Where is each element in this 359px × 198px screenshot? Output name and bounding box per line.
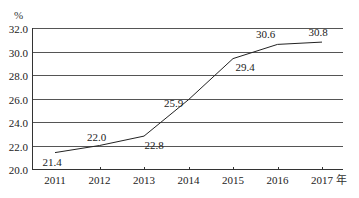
data-label: 21.4 — [42, 156, 62, 168]
x-tick-label: 2017 — [311, 174, 334, 186]
data-label: 29.4 — [235, 61, 255, 73]
y-tick-label: 32.0 — [9, 23, 29, 35]
data-label: 30.6 — [256, 28, 276, 40]
y-tick-label: 28.0 — [9, 70, 29, 82]
x-tick-label: 2013 — [133, 174, 156, 186]
x-tick-label: 2012 — [89, 174, 111, 186]
data-label: 22.0 — [87, 131, 107, 143]
x-tick-label: 2016 — [267, 174, 290, 186]
y-tick-label: 26.0 — [9, 94, 29, 106]
y-axis-unit-label: % — [14, 9, 23, 21]
y-tick-label: 24.0 — [9, 117, 29, 129]
data-label: 30.8 — [308, 26, 328, 38]
x-tick-label: 2015 — [222, 174, 245, 186]
x-tick-label: 2011 — [44, 174, 66, 186]
x-tick-label: 2014 — [178, 174, 201, 186]
data-label: 22.8 — [144, 139, 164, 151]
grid-layer — [32, 29, 343, 147]
y-tick-label: 22.0 — [9, 141, 29, 153]
line-chart: 20.022.024.026.028.030.032.0201120122013… — [0, 0, 359, 198]
y-tick-label: 20.0 — [9, 164, 29, 176]
y-tick-label: 30.0 — [9, 47, 29, 59]
x-axis-unit-label: 年 — [336, 173, 347, 186]
data-label: 25.9 — [164, 97, 184, 109]
